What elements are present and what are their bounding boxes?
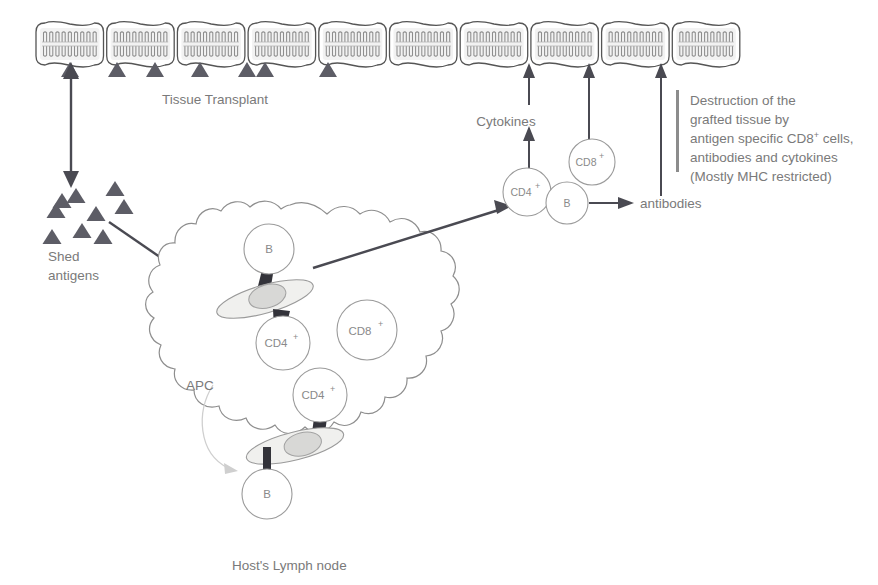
cd4-cell-node-lower-label: CD4 [301,389,325,401]
tissue-cell [107,22,175,67]
b-cell-node-lower-label: B [263,488,271,500]
diagram-canvas: Tissue Transplant Shed antigens A [0,0,878,585]
b-to-antibodies-arrow [589,197,634,209]
tissue-cell-cytoplasm [40,28,100,60]
cd4-cell-node-upper-sup: + [293,332,298,342]
cd4-cell-effector-sup: + [535,181,540,191]
cd8-cell-effector: CD8 + [569,139,615,185]
cd8-cell-effector-label: CD8 [575,156,596,168]
shed-antigens-label-line2: antigens [48,268,99,283]
host-lymph-node-label: Host's Lymph node [232,558,347,573]
tissue-cell-cytoplasm [464,28,524,60]
cd8-to-tissue-arrow [583,63,595,141]
destruction-line-5: (Mostly MHC restricted) [690,169,832,184]
tissue-cell [177,22,245,67]
tissue-cell-cytoplasm [111,28,171,60]
cytokines-to-tissue-arrow [523,63,535,105]
cd4-cell-node-lower: CD4 + [293,368,347,422]
destruction-text-rule [676,90,679,172]
shed-antigens-label-line1: Shed [48,249,80,264]
shedding-arrow [63,62,79,188]
cd4-cell-node-upper: CD4 + [256,316,310,370]
cd4-cell-effector-label: CD4 [510,186,531,198]
apc-label: APC [186,378,214,393]
tissue-cell [602,22,670,67]
tissue-cell [390,22,458,67]
shed-antigen-pool [43,181,134,244]
cd8-cell-node-label: CD8 [348,325,371,337]
tissue-cell [248,22,316,67]
cd8-cell-node: CD8 + [337,300,397,360]
b-cell-node-lower: B [242,469,292,519]
shed-antigen-marker [115,199,134,214]
tissue-cell-cytoplasm [535,28,595,60]
cd4-cell-effector: CD4 + [503,168,551,216]
b-cell-effector: B [546,182,588,224]
tissue-cell-cytoplasm [394,28,454,60]
destruction-line-3: antigen specific CD8+ cells, [690,130,854,146]
cytokines-label: Cytokines [476,114,536,129]
tissue-cell-cytoplasm [606,28,666,60]
antibodies-label: antibodies [640,196,702,211]
destruction-line-4: antibodies and cytokines [690,150,838,165]
cd4-to-cytokines-arrow [523,126,535,168]
shed-antigen-marker [67,188,86,203]
antibodies-to-tissue-arrow [655,63,667,196]
shed-antigen-marker [73,223,92,238]
shed-antigen-marker [106,181,125,196]
cd4-cell-node-upper-label: CD4 [264,337,288,349]
b-cell-effector-label: B [563,197,570,209]
tissue-transplant-row [36,22,740,67]
shed-antigen-marker [94,229,113,244]
b-cell-node-upper: B [244,224,294,274]
apc-b-synapse-lower [263,447,271,470]
tissue-cell [36,22,104,67]
tissue-cell-cytoplasm [181,28,241,60]
b-cell-node-upper-label: B [265,243,273,255]
antigen-marker [319,62,337,77]
destruction-line-2: grafted tissue by [690,112,789,127]
cd8-cell-effector-sup: + [599,151,604,161]
shed-antigen-marker [87,206,106,221]
tissue-cell [319,22,387,67]
tissue-cell [531,22,599,67]
shed-antigen-marker [43,229,62,244]
cd8-cell-node-sup: + [378,319,383,329]
tissue-cell [460,22,528,67]
tissue-cell [672,22,740,67]
cd4-cell-node-lower-sup: + [330,384,335,394]
destruction-line-1: Destruction of the [690,93,796,108]
tissue-cell-cytoplasm [252,28,312,60]
tissue-cell-cytoplasm [676,28,736,60]
tissue-cell-cytoplasm [323,28,383,60]
tissue-transplant-label: Tissue Transplant [162,92,268,107]
